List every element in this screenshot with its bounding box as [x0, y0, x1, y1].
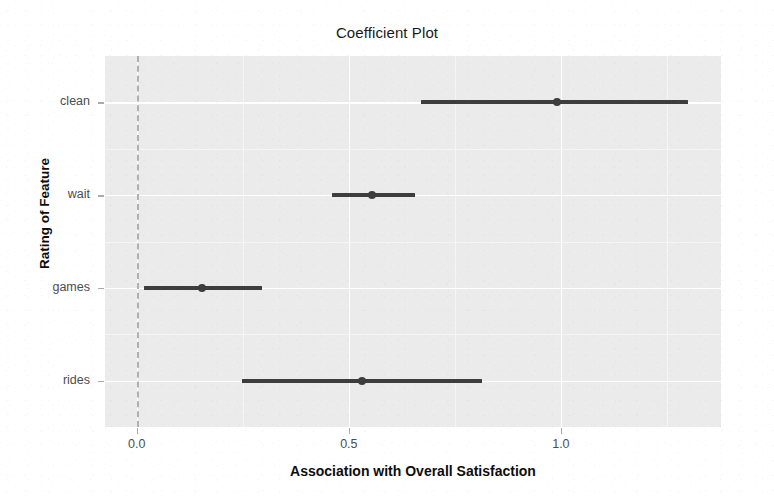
x-tick-label: 1.0 [531, 437, 591, 451]
horizontal-gridline-minor [105, 242, 721, 243]
zero-reference-line [137, 56, 139, 427]
horizontal-gridline-minor [105, 334, 721, 335]
y-tick-label-games: games [0, 280, 90, 294]
y-tick-mark [98, 288, 104, 289]
x-axis-title: Association with Overall Satisfaction [105, 463, 721, 479]
x-tick-label: 0.0 [107, 437, 167, 451]
y-tick-mark [98, 381, 104, 382]
y-tick-mark [98, 102, 104, 103]
x-tick-mark [561, 428, 562, 434]
x-tick-mark [137, 428, 138, 434]
plot-panel [105, 56, 721, 427]
coefficient-plot-figure: Coefficient Plot Rating of Feature 0.00.… [0, 0, 774, 497]
point-estimate-marker [198, 284, 206, 292]
y-tick-label-clean: clean [0, 94, 90, 108]
horizontal-gridline-minor [105, 149, 721, 150]
y-tick-label-rides: rides [0, 373, 90, 387]
point-estimate-marker [553, 98, 561, 106]
x-tick-mark [349, 428, 350, 434]
page-title: Coefficient Plot [0, 24, 774, 41]
y-tick-mark [98, 195, 104, 196]
y-axis-title: Rating of Feature [37, 74, 52, 354]
point-estimate-marker [368, 191, 376, 199]
point-estimate-marker [358, 377, 366, 385]
x-tick-label: 0.5 [319, 437, 379, 451]
y-tick-label-wait: wait [0, 187, 90, 201]
